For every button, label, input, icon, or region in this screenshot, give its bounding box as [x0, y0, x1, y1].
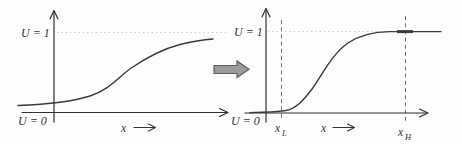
- right-x-axis-label: x: [320, 122, 327, 134]
- right-u0-label: U = 0: [231, 114, 260, 128]
- x-high-label: x H: [397, 126, 412, 142]
- figure-canvas: U = 1 U = 0 x U =: [0, 0, 462, 144]
- right-plot: U = 1 U = 0 x L x x H: [231, 9, 441, 142]
- left-u1-label: U = 1: [21, 26, 50, 40]
- svg-text:H: H: [404, 132, 412, 142]
- right-u1-label: U = 1: [234, 25, 263, 39]
- left-plot: U = 1 U = 0 x: [18, 11, 229, 135]
- right-utility-curve: [250, 32, 441, 113]
- transform-arrow-icon: [214, 61, 249, 78]
- left-u0-label: U = 0: [18, 114, 47, 128]
- svg-text:x: x: [397, 126, 404, 138]
- svg-text:L: L: [281, 128, 287, 138]
- utility-normalization-figure: U = 1 U = 0 x U =: [0, 0, 462, 144]
- x-low-label: x L: [274, 122, 287, 138]
- svg-text:x: x: [274, 122, 281, 134]
- left-x-direction-arrow-icon: [134, 124, 156, 131]
- left-utility-curve: [18, 39, 213, 106]
- left-x-axis-label: x: [120, 122, 127, 134]
- right-x-direction-arrow-icon: [333, 124, 355, 131]
